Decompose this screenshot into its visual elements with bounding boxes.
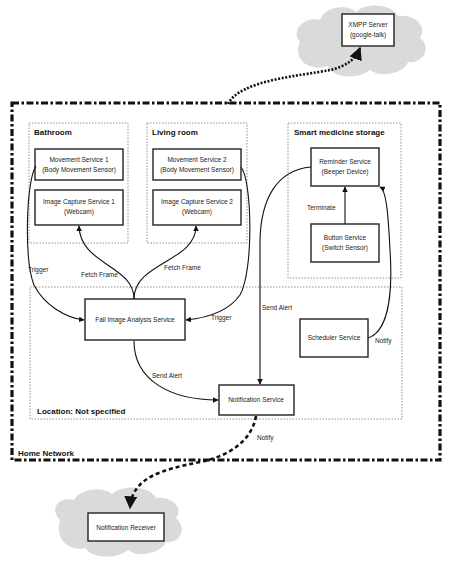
fetch-frame-left-label: Fetch Frame [81, 271, 118, 278]
image-capture-service-2-sublabel: (Webcam) [182, 208, 212, 216]
movement-service-2-node[interactable]: Movement Service 2 (Body Movement Sensor… [153, 149, 241, 180]
living-room-label: Living room [152, 128, 198, 137]
image-capture-service-2-node[interactable]: Image Capture Service 2 (Webcam) [153, 190, 241, 225]
movement-service-1-label: Movement Service 1 [49, 156, 109, 163]
xmpp-server-node[interactable]: XMPP Server (google-talk) [342, 14, 394, 46]
image-capture-service-1-sublabel: (Webcam) [64, 208, 94, 216]
architecture-diagram: XMPP Server (google-talk) Home Network B… [0, 0, 449, 575]
terminate-label: Terminate [307, 204, 336, 211]
reminder-service-sublabel: (Beeper Device) [322, 168, 369, 176]
movement-service-2-label: Movement Service 2 [167, 156, 227, 163]
trigger-right-label: Trigger [211, 314, 232, 322]
reminder-service-node[interactable]: Reminder Service (Beeper Device) [311, 148, 379, 186]
notify-receiver-label: Notify [257, 434, 274, 442]
location-not-specified-label: Location: Not specified [37, 407, 126, 416]
button-service-node[interactable]: Button Service (Switch Sensor) [311, 224, 379, 262]
send-alert-reminder-label: Send Alert [262, 304, 292, 311]
image-capture-service-2-label: Image Capture Service 2 [161, 198, 233, 206]
notification-service-label: Notification Service [228, 396, 284, 403]
fall-image-analysis-service-label: Fall Image Analysis Service [95, 316, 175, 324]
edge-fetch-frame-left [79, 226, 134, 299]
smart-medicine-storage-label: Smart medicine storage [294, 128, 385, 137]
image-capture-service-1-node[interactable]: Image Capture Service 1 (Webcam) [35, 190, 123, 225]
edge-fetch-frame-right [134, 226, 196, 299]
notification-service-node[interactable]: Notification Service [219, 385, 294, 415]
button-service-label: Button Service [324, 234, 367, 241]
image-capture-service-1-label: Image Capture Service 1 [43, 198, 115, 206]
notification-receiver-node[interactable]: Notification Receiver [88, 513, 164, 541]
xmpp-server-sublabel: (google-talk) [350, 31, 386, 39]
movement-service-1-node[interactable]: Movement Service 1 (Body Movement Sensor… [35, 149, 123, 180]
xmpp-server-label: XMPP Server [348, 21, 388, 28]
bathroom-label: Bathroom [34, 128, 72, 137]
notify-scheduler-label: Notify [375, 337, 392, 345]
movement-service-2-sublabel: (Body Movement Sensor) [160, 166, 234, 174]
button-service-sublabel: (Switch Sensor) [322, 244, 368, 252]
trigger-left-label: Trigger [28, 266, 49, 274]
scheduler-service-node[interactable]: Scheduler Service [300, 319, 368, 357]
reminder-service-label: Reminder Service [319, 158, 371, 165]
scheduler-service-label: Scheduler Service [308, 334, 361, 341]
notification-receiver-label: Notification Receiver [96, 524, 156, 531]
edge-send-alert-notification [134, 341, 218, 400]
fetch-frame-right-label: Fetch Frame [164, 264, 201, 271]
fall-image-analysis-service-node[interactable]: Fall Image Analysis Service [85, 299, 185, 340]
movement-service-1-sublabel: (Body Movement Sensor) [42, 166, 116, 174]
send-alert-notification-label: Send Alert [152, 372, 182, 379]
home-network-label: Home Network [18, 449, 75, 458]
